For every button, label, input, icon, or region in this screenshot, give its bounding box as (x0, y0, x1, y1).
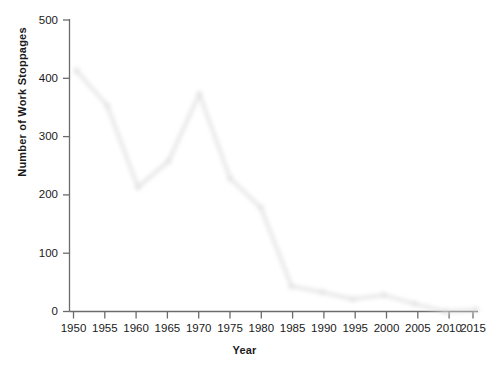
data-series-markers (71, 64, 476, 311)
x-axis-title: Year (0, 344, 489, 356)
y-tick-label-0: 0 (18, 305, 58, 317)
data-point (439, 305, 445, 311)
data-point (286, 279, 292, 285)
y-axis-title: Number of Work Stoppages (16, 2, 28, 202)
data-point (470, 303, 476, 309)
data-point (316, 285, 322, 291)
data-point (347, 292, 353, 298)
data-point (132, 180, 138, 186)
x-tick-marks (74, 312, 474, 319)
data-point (194, 87, 200, 93)
chart-plot-area (0, 0, 489, 367)
data-point (71, 64, 77, 70)
y-tick-marks (63, 20, 70, 312)
data-point (163, 154, 169, 160)
data-point (409, 297, 415, 303)
x-tick-label-2015: 2015 (453, 322, 489, 334)
data-series-line (74, 67, 474, 308)
data-point (101, 99, 107, 105)
data-point (224, 172, 230, 178)
y-tick-label-100: 100 (18, 247, 58, 259)
line-chart: 0 100 200 300 400 500 1950 1955 1960 196… (0, 0, 489, 367)
data-point (378, 288, 384, 294)
data-point (255, 201, 261, 207)
